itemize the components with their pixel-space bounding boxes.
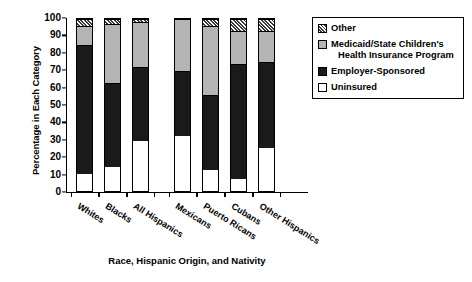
legend-label-employer: Employer-Sponsored bbox=[331, 66, 459, 77]
bar-all-hispanics[interactable] bbox=[132, 18, 149, 192]
y-axis-tick-mark bbox=[62, 52, 66, 53]
x-axis-label-other-hispanics: Other Hispanics bbox=[257, 201, 321, 246]
bar-segment-other bbox=[77, 19, 92, 26]
legend-label-medicaid-line2: Health Insurance Program bbox=[331, 50, 454, 61]
bar-segment-medicaid bbox=[175, 19, 190, 71]
bar-segment-employer bbox=[133, 67, 148, 141]
legend-swatch-uninsured-icon bbox=[318, 83, 327, 92]
y-axis-tick-label: 40 bbox=[27, 117, 66, 127]
y-axis-tick-label: 100 bbox=[27, 13, 66, 23]
y-axis-tick-mark bbox=[62, 174, 66, 175]
x-axis-tick-mark bbox=[253, 192, 254, 197]
legend-label-medicaid: Medicaid/State Children'sHealth Insuranc… bbox=[331, 39, 459, 61]
legend-swatch-other-icon bbox=[318, 24, 327, 33]
y-axis-tick-mark bbox=[62, 104, 66, 105]
y-axis-tick-mark bbox=[62, 70, 66, 71]
bar-segment-uninsured bbox=[231, 179, 246, 191]
y-axis-tick-label: 90 bbox=[27, 30, 66, 40]
bar-segment-uninsured bbox=[105, 167, 120, 191]
x-axis-tick-mark bbox=[71, 192, 72, 197]
bar-segment-employer bbox=[175, 71, 190, 136]
y-axis-tick-mark bbox=[62, 122, 66, 123]
bar-segment-medicaid bbox=[105, 24, 120, 82]
y-axis-tick-mark bbox=[62, 87, 66, 88]
y-axis-tick-label: 0 bbox=[27, 187, 66, 197]
x-axis-tick-mark bbox=[169, 192, 170, 197]
bar-segment-employer bbox=[259, 62, 274, 148]
x-axis-tick-mark bbox=[127, 192, 128, 197]
stacked-bar-chart: Percentage in Each Category 100908070605… bbox=[0, 0, 472, 282]
y-axis-tick-label: 50 bbox=[27, 100, 66, 110]
bar-segment-medicaid bbox=[77, 26, 92, 45]
y-axis-tick-label: 70 bbox=[27, 65, 66, 75]
y-axis-tick-mark bbox=[62, 139, 66, 140]
y-axis-tick-mark bbox=[62, 191, 66, 192]
bar-blacks[interactable] bbox=[104, 18, 121, 192]
bar-segment-employer bbox=[203, 95, 218, 171]
x-axis-tick-mark bbox=[197, 192, 198, 197]
legend-item-other[interactable]: Other bbox=[318, 23, 459, 34]
bar-other-hispanics[interactable] bbox=[258, 18, 275, 192]
legend-item-uninsured[interactable]: Uninsured bbox=[318, 82, 459, 93]
bar-segment-other bbox=[231, 19, 246, 31]
x-axis-label-whites: Whites bbox=[75, 201, 105, 225]
bar-segment-other bbox=[203, 19, 218, 26]
bar-segment-employer bbox=[105, 83, 120, 167]
x-axis-title: Race, Hispanic Origin, and Nativity bbox=[66, 255, 308, 266]
bar-segment-medicaid bbox=[231, 31, 246, 64]
legend-label-uninsured: Uninsured bbox=[331, 82, 459, 93]
x-axis-tick-mark bbox=[225, 192, 226, 197]
x-axis-label-blacks: Blacks bbox=[103, 201, 133, 225]
bar-segment-uninsured bbox=[203, 170, 218, 191]
y-axis-tick-mark bbox=[62, 17, 66, 18]
y-axis-tick-label: 20 bbox=[27, 152, 66, 162]
bar-segment-medicaid bbox=[259, 31, 274, 62]
legend-label-other: Other bbox=[331, 23, 459, 34]
y-axis-tick-label: 10 bbox=[27, 170, 66, 180]
bar-segment-uninsured bbox=[259, 148, 274, 191]
bar-cubans[interactable] bbox=[230, 18, 247, 192]
y-axis-tick-mark bbox=[62, 157, 66, 158]
legend: Other Medicaid/State Children'sHealth In… bbox=[312, 17, 464, 99]
bar-segment-uninsured bbox=[175, 136, 190, 191]
bar-segment-employer bbox=[77, 45, 92, 174]
bar-whites[interactable] bbox=[76, 18, 93, 192]
bar-mexicans[interactable] bbox=[174, 18, 191, 192]
x-axis-tick-mark bbox=[99, 192, 100, 197]
legend-item-medicaid[interactable]: Medicaid/State Children'sHealth Insuranc… bbox=[318, 39, 459, 61]
bar-segment-uninsured bbox=[133, 141, 148, 191]
y-axis-tick-label: 30 bbox=[27, 135, 66, 145]
legend-swatch-medicaid-icon bbox=[318, 40, 327, 49]
bar-puerto-ricans[interactable] bbox=[202, 18, 219, 192]
y-axis-line bbox=[66, 18, 67, 192]
legend-label-medicaid-line1: Medicaid/State Children's bbox=[331, 39, 444, 49]
y-axis-tick-label: 60 bbox=[27, 83, 66, 93]
x-axis-line bbox=[66, 192, 308, 193]
bar-segment-other bbox=[259, 19, 274, 31]
legend-item-employer[interactable]: Employer-Sponsored bbox=[318, 66, 459, 77]
x-axis-tick-mark bbox=[154, 192, 155, 197]
bar-segment-employer bbox=[231, 64, 246, 179]
legend-swatch-employer-icon bbox=[318, 67, 327, 76]
x-axis-tick-mark bbox=[280, 192, 281, 197]
y-axis-tick-label: 80 bbox=[27, 48, 66, 58]
bar-segment-medicaid bbox=[133, 22, 148, 67]
bar-segment-medicaid bbox=[203, 26, 218, 95]
y-axis-tick-mark bbox=[62, 35, 66, 36]
plot-area: 1009080706050403020100 bbox=[66, 18, 308, 192]
bar-segment-uninsured bbox=[77, 174, 92, 191]
